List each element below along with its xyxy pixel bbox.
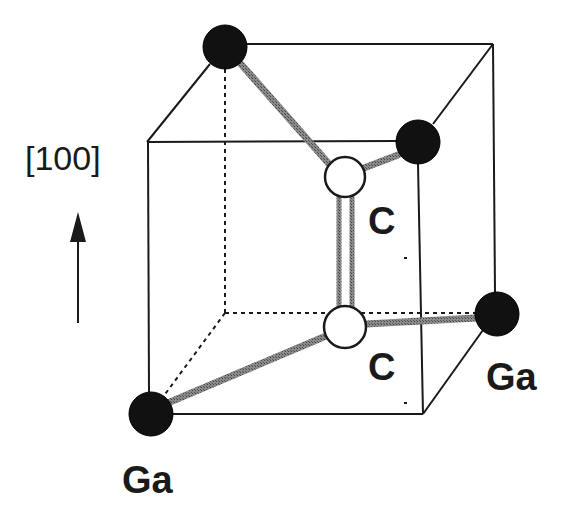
- speck-1: [404, 257, 407, 259]
- ga-right-label: Ga: [486, 356, 538, 398]
- edge-top-right: [433, 44, 493, 124]
- ga-bottom-label: Ga: [122, 459, 174, 501]
- c-atom-bottom: [324, 306, 366, 348]
- bond-c-bottom-ga-bottomright: [366, 318, 476, 324]
- ga-c-dimer-diagram: [100] C C Ga Ga: [0, 0, 572, 522]
- bond-ga-topleft-c-top: [240, 63, 330, 165]
- edge-top-front: [147, 141, 397, 142]
- c-atom-top: [325, 157, 365, 197]
- bond-c-top-ga-topright: [364, 155, 398, 168]
- arrow-up-icon: [70, 212, 86, 242]
- direction-label: [100]: [25, 139, 101, 177]
- cube-hidden-edges: [163, 69, 476, 397]
- ga-atom-back-bottom-right: [475, 292, 519, 336]
- edge-front-right: [418, 164, 423, 414]
- edge-back-right: [493, 44, 495, 292]
- edge-front-left: [148, 142, 149, 392]
- c-top-label: C: [368, 200, 395, 242]
- bond-ga-bottomleft-c-bottom: [170, 336, 326, 402]
- ga-atom-front-bottom-left: [129, 392, 173, 436]
- speck-2: [404, 402, 407, 404]
- ga-atom-back-top-left: [203, 25, 247, 69]
- cube-visible-edges: [147, 44, 495, 414]
- c-bottom-label: C: [368, 346, 395, 388]
- edge-top-left: [147, 64, 210, 142]
- bonds: [170, 63, 476, 402]
- ga-atom-front-top-right: [396, 120, 440, 164]
- direction-arrow: [70, 212, 86, 323]
- edge-bottom-right: [423, 330, 483, 414]
